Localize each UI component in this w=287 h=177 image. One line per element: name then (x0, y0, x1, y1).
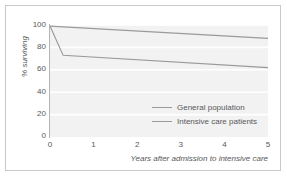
y-tick-label: 60 (4, 65, 46, 73)
y-tick-label: 0 (4, 132, 46, 140)
y-axis-ticks: 100 80 60 40 20 0 (0, 0, 46, 177)
legend-label: General population (177, 103, 245, 112)
chart-legend: General population Intensive care patien… (152, 100, 272, 128)
series-line-general-population (50, 26, 268, 38)
x-tick-label: 3 (171, 140, 191, 150)
legend-item-intensive-care-patients: Intensive care patients (152, 114, 272, 128)
x-axis-title: Years after admission to intensive care (88, 154, 268, 163)
chart-figure: % surviving 100 80 60 40 20 0 (0, 0, 287, 177)
y-tick-label: 40 (4, 88, 46, 96)
y-tick-label: 80 (4, 43, 46, 51)
x-tick-label: 1 (84, 140, 104, 150)
legend-line-icon (152, 107, 172, 108)
legend-label: Intensive care patients (177, 117, 257, 126)
x-axis-ticks: 0 1 2 3 4 5 (50, 140, 268, 152)
x-tick-label: 0 (40, 140, 60, 150)
x-tick-label: 2 (127, 140, 147, 150)
y-tick-label: 100 (4, 21, 46, 29)
x-tick-label: 5 (258, 140, 278, 150)
legend-item-general-population: General population (152, 100, 272, 114)
x-tick-label: 4 (214, 140, 234, 150)
y-tick-label: 20 (4, 110, 46, 118)
legend-line-icon (152, 121, 172, 122)
